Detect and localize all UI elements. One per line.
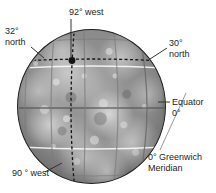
dashed-latitude-32-north <box>22 59 163 61</box>
label-30-north-line1: 30° <box>169 38 190 49</box>
label-equator-line1: Equator <box>172 97 204 108</box>
label-90-west: 90 ° west <box>12 168 49 179</box>
label-greenwich-meridian: 0° Greenwich Meridian <box>148 152 202 173</box>
label-equator-line2: 0° <box>172 108 204 119</box>
label-32-north-line1: 32° <box>5 26 26 37</box>
latitude-30-north-line <box>20 66 165 68</box>
latitude-60-south-line <box>38 173 147 176</box>
meridian-west-3 <box>51 32 54 182</box>
location-marker-dot <box>69 57 76 64</box>
label-32-north-line2: north <box>5 37 26 48</box>
label-30-north: 30° north <box>169 38 190 59</box>
dashed-longitude-92-west <box>71 33 74 181</box>
globe-diagram: 92° west 32° north 30° north Equator 0° … <box>0 0 216 193</box>
label-30-north-line2: north <box>169 49 190 60</box>
meridian-west-2 <box>84 30 85 184</box>
latitude-60-north-line <box>38 39 147 42</box>
globe-graticule <box>18 30 166 184</box>
globe <box>17 29 166 184</box>
label-equator: Equator 0° <box>172 97 204 118</box>
label-32-north: 32° north <box>5 26 26 47</box>
label-greenwich-line2: Meridian <box>148 163 202 174</box>
label-greenwich-line1: 0° Greenwich <box>148 152 202 163</box>
label-92-west: 92° west <box>69 7 104 18</box>
latitude-30-south-line <box>20 147 165 149</box>
meridian-west-1 <box>114 32 118 182</box>
globe-sphere <box>17 29 166 184</box>
